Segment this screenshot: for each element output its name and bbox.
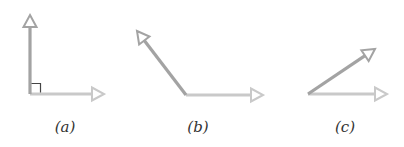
panel-c: [308, 49, 387, 101]
arrowhead-icon: [251, 89, 263, 102]
arrowhead-icon: [375, 88, 387, 101]
panel-b: [137, 31, 263, 102]
angled-arrow-a: [24, 15, 37, 94]
horizontal-arrow-b: [186, 89, 263, 102]
arrowhead-icon: [92, 88, 104, 101]
angled-arrow-b: [137, 31, 186, 95]
angled-arrow-c: [308, 49, 375, 94]
arrowhead-icon: [361, 49, 375, 61]
label-a: (a): [55, 118, 76, 136]
label-b: (b): [187, 118, 208, 136]
panel-a: [24, 15, 105, 101]
label-c: (c): [335, 118, 355, 136]
arrowhead-icon: [24, 15, 37, 27]
horizontal-arrow-c: [308, 88, 387, 101]
right-angle-marker: [32, 84, 41, 93]
